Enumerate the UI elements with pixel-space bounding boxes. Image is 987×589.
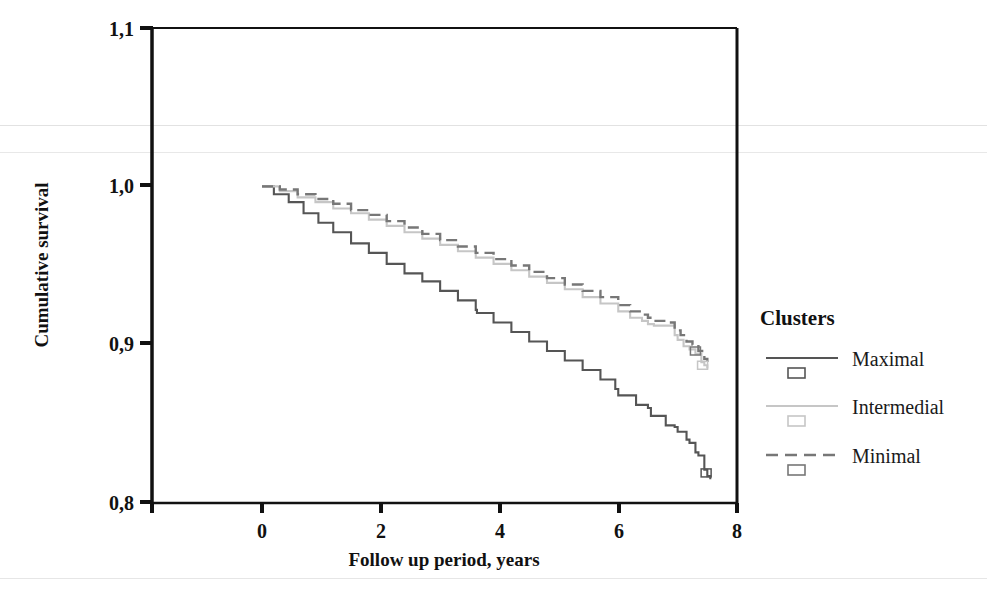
legend-item-maximal[interactable]: Maximal <box>766 348 925 378</box>
legend-title: Clusters <box>760 306 835 330</box>
survival-curve-maximal <box>262 186 710 479</box>
y-tick-label: 1,0 <box>109 175 134 197</box>
survival-curve-minimal <box>262 186 707 362</box>
x-tick-label: 8 <box>732 520 742 542</box>
y-tick-label: 0,8 <box>109 492 134 514</box>
survival-curve-intermedial <box>262 186 707 368</box>
legend-label: Minimal <box>852 445 921 467</box>
x-tick-label: 2 <box>376 520 386 542</box>
x-axis-title: Follow up period, years <box>348 549 539 570</box>
x-tick-label: 6 <box>614 520 624 542</box>
plot-frame <box>152 28 737 503</box>
y-axis-title: Cumulative survival <box>31 182 52 347</box>
legend: Clusters Maximal Intermedial Minimal <box>760 306 945 475</box>
survival-chart-figure: 1,1 1,0 0,9 0,8 0 2 4 6 8 Follow up peri… <box>0 0 987 589</box>
x-axis-ticks <box>152 503 737 513</box>
legend-item-minimal[interactable]: Minimal <box>766 445 921 475</box>
y-tick-label: 0,9 <box>109 333 134 355</box>
kaplan-meier-plot: 1,1 1,0 0,9 0,8 0 2 4 6 8 Follow up peri… <box>0 0 987 589</box>
legend-label: Maximal <box>852 348 925 370</box>
survival-curves <box>262 186 711 479</box>
x-tick-label: 4 <box>495 520 505 542</box>
legend-item-intermedial[interactable]: Intermedial <box>766 396 945 426</box>
x-tick-label: 0 <box>257 520 267 542</box>
legend-label: Intermedial <box>852 396 945 418</box>
y-tick-label: 1,1 <box>109 18 134 40</box>
